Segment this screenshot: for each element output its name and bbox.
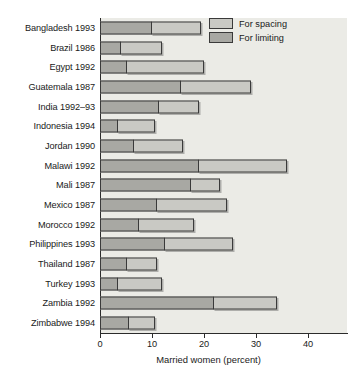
bar-row: Mali 1987 (0, 176, 361, 196)
bar-segment-limiting[interactable] (100, 317, 129, 330)
bar-segment-limiting[interactable] (100, 297, 214, 310)
bar-segment-spacing[interactable] (156, 199, 227, 212)
bar-segment-spacing[interactable] (198, 159, 287, 172)
category-label: Mali 1987 (56, 180, 95, 190)
bar-rows: Bangladesh 1993Brazil 1986Egypt 1992Guat… (0, 18, 361, 333)
bar-segment-limiting[interactable] (100, 277, 118, 290)
legend-label-limiting: For limiting (239, 33, 284, 43)
bar-segment-spacing[interactable] (117, 277, 162, 290)
category-label: Turkey 1993 (45, 279, 95, 289)
spacing-swatch-icon (209, 18, 233, 29)
stacked-bar[interactable] (100, 100, 199, 113)
stacked-bar[interactable] (100, 61, 204, 74)
bar-row: Guatemala 1987 (0, 77, 361, 97)
x-tick-label: 30 (251, 339, 261, 349)
stacked-bar[interactable] (100, 238, 233, 251)
stacked-bar[interactable] (100, 277, 162, 290)
category-label: Brazil 1986 (50, 43, 95, 53)
bar-row: Philippines 1993 (0, 235, 361, 255)
x-tick (256, 333, 257, 338)
legend-label-spacing: For spacing (239, 19, 287, 29)
bar-chart: Bangladesh 1993Brazil 1986Egypt 1992Guat… (0, 0, 361, 388)
x-tick (100, 333, 101, 338)
bar-row: Zambia 1992 (0, 294, 361, 314)
x-tick (204, 333, 205, 338)
bar-row: Malawi 1992 (0, 156, 361, 176)
category-label: Thailand 1987 (38, 259, 95, 269)
legend-item-spacing[interactable]: For spacing (209, 18, 287, 29)
bar-segment-spacing[interactable] (164, 238, 233, 251)
stacked-bar[interactable] (100, 317, 155, 330)
bar-segment-limiting[interactable] (100, 238, 165, 251)
bar-segment-limiting[interactable] (100, 120, 118, 133)
x-axis-line (100, 333, 348, 334)
x-tick-label: 10 (147, 339, 157, 349)
bar-segment-spacing[interactable] (126, 61, 204, 74)
stacked-bar[interactable] (100, 258, 157, 271)
bar-row: Egypt 1992 (0, 57, 361, 77)
bar-segment-limiting[interactable] (100, 199, 157, 212)
limiting-swatch-icon (209, 32, 233, 43)
category-label: Mexico 1987 (44, 200, 95, 210)
bar-segment-limiting[interactable] (100, 139, 134, 152)
bar-row: Mexico 1987 (0, 195, 361, 215)
legend-item-limiting[interactable]: For limiting (209, 32, 287, 43)
stacked-bar[interactable] (100, 159, 287, 172)
category-label: Philippines 1993 (29, 239, 95, 249)
stacked-bar[interactable] (100, 139, 183, 152)
category-label: India 1992–93 (38, 102, 95, 112)
bar-segment-limiting[interactable] (100, 80, 181, 93)
bar-segment-limiting[interactable] (100, 100, 159, 113)
x-tick-label: 40 (303, 339, 313, 349)
bar-segment-spacing[interactable] (128, 317, 155, 330)
bar-segment-spacing[interactable] (120, 41, 163, 54)
category-label: Morocco 1992 (38, 220, 95, 230)
bar-segment-spacing[interactable] (117, 120, 154, 133)
category-label: Indonesia 1994 (34, 121, 95, 131)
category-label: Guatemala 1987 (28, 82, 95, 92)
bar-row: Bangladesh 1993 (0, 18, 361, 38)
bar-row: Brazil 1986 (0, 38, 361, 58)
x-tick (152, 333, 153, 338)
stacked-bar[interactable] (100, 21, 201, 34)
bar-segment-spacing[interactable] (151, 21, 201, 34)
category-label: Bangladesh 1993 (25, 23, 95, 33)
category-label: Zimbabwe 1994 (31, 318, 95, 328)
x-axis-label-container: Married women (percent) (0, 354, 361, 365)
category-label: Egypt 1992 (50, 62, 96, 72)
bar-segment-limiting[interactable] (100, 61, 127, 74)
bar-segment-spacing[interactable] (190, 179, 220, 192)
category-label: Malawi 1992 (45, 161, 95, 171)
bar-segment-limiting[interactable] (100, 258, 127, 271)
stacked-bar[interactable] (100, 80, 251, 93)
bar-segment-limiting[interactable] (100, 159, 199, 172)
stacked-bar[interactable] (100, 218, 194, 231)
bar-row: Turkey 1993 (0, 274, 361, 294)
category-label: Jordan 1990 (45, 141, 95, 151)
stacked-bar[interactable] (100, 297, 277, 310)
stacked-bar[interactable] (100, 179, 220, 192)
x-tick-label: 0 (97, 339, 102, 349)
bar-segment-spacing[interactable] (138, 218, 194, 231)
bar-segment-limiting[interactable] (100, 41, 121, 54)
bar-segment-limiting[interactable] (100, 218, 139, 231)
bar-row: Morocco 1992 (0, 215, 361, 235)
bar-segment-limiting[interactable] (100, 21, 152, 34)
bar-row: India 1992–93 (0, 97, 361, 117)
bar-segment-spacing[interactable] (133, 139, 183, 152)
x-tick (308, 333, 309, 338)
stacked-bar[interactable] (100, 41, 162, 54)
bar-segment-spacing[interactable] (126, 258, 157, 271)
bar-row: Jordan 1990 (0, 136, 361, 156)
bar-segment-spacing[interactable] (213, 297, 276, 310)
bar-segment-spacing[interactable] (180, 80, 251, 93)
bar-row: Zimbabwe 1994 (0, 313, 361, 333)
x-tick-label: 20 (199, 339, 209, 349)
bar-row: Indonesia 1994 (0, 116, 361, 136)
bar-segment-limiting[interactable] (100, 179, 191, 192)
bar-segment-spacing[interactable] (158, 100, 199, 113)
legend: For spacing For limiting (209, 18, 287, 43)
category-label: Zambia 1992 (42, 298, 95, 308)
stacked-bar[interactable] (100, 120, 155, 133)
stacked-bar[interactable] (100, 199, 227, 212)
